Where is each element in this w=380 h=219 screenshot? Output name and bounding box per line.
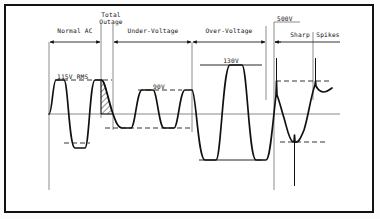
region-label-over-voltage: Over-Voltage [205, 27, 252, 34]
annotation-500v: 500V [277, 15, 293, 22]
region-label-total-outage: Total Outage [99, 11, 123, 25]
diagram-frame: Normal AC Total Outage Under-Voltage Ove… [0, 0, 380, 219]
region-label-sharp: Sharp [290, 31, 310, 38]
waveform-trace [49, 65, 332, 160]
annotation-90v: 90V [153, 83, 165, 90]
annotation-130v: 130V [223, 57, 239, 64]
region-dividers [49, 22, 313, 190]
region-label-spikes: Spikes [316, 31, 340, 38]
annotation-115v-rms: 115V RMS [57, 73, 88, 80]
region-label-under-voltage: Under-Voltage [127, 27, 178, 34]
region-label-normal-ac: Normal AC [57, 27, 92, 34]
spike-stems [277, 58, 316, 186]
